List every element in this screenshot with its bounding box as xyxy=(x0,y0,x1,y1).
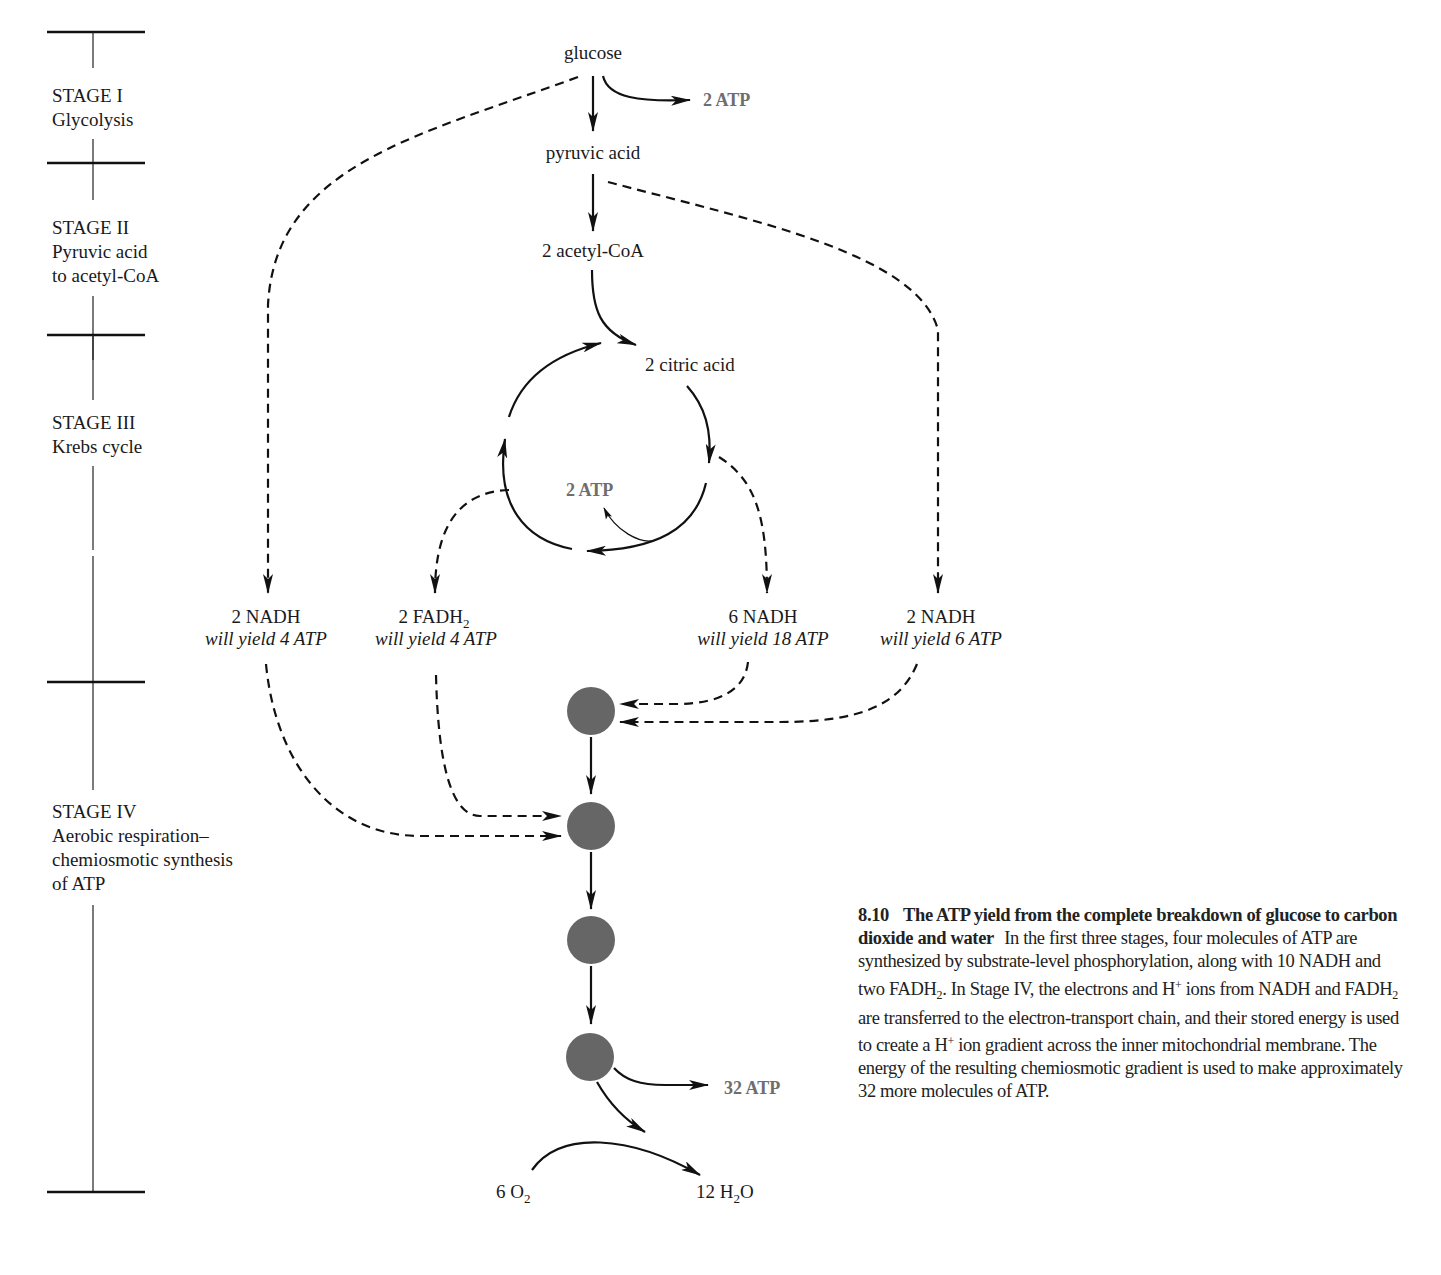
carrier-nadh-pyruvate: 2 NADH will yield 6 ATP xyxy=(880,606,1002,649)
etc-carrier-4 xyxy=(566,1033,614,1081)
carrier-yield: will yield 4 ATP xyxy=(375,628,497,649)
electron-transport-chain xyxy=(532,687,708,1175)
figure-number: 8.10 xyxy=(858,905,889,925)
dashed-arrow-fadh2-to-etc xyxy=(436,675,561,816)
etc-carrier-3 xyxy=(567,916,615,964)
acetyl-coa-label: 2 acetyl-CoA xyxy=(542,240,644,261)
carrier-fadh2-krebs: 2 FADH2 will yield 4 ATP xyxy=(375,606,497,649)
stage-description: to acetyl-CoA xyxy=(52,265,159,286)
arrow-acetylcoa-to-citric xyxy=(592,270,636,345)
cycle-arc xyxy=(503,439,572,549)
carrier-yield: will yield 18 ATP xyxy=(697,628,829,649)
carrier-name: 2 NADH xyxy=(906,606,975,627)
dashed-arrow-krebs-nadh xyxy=(719,457,767,593)
figure-caption: 8.10The ATP yield from the complete brea… xyxy=(858,904,1403,1104)
etc-carrier-2 xyxy=(567,802,615,850)
stage-1-label: STAGE I Glycolysis xyxy=(52,85,133,130)
stage-description: of ATP xyxy=(52,873,105,894)
stage-description: Glycolysis xyxy=(52,109,133,130)
glycolysis-atp-label: 2 ATP xyxy=(703,90,750,110)
dashed-arrow-nadh18-to-etc xyxy=(620,662,748,704)
caption-body: In the first three stages, four molecule… xyxy=(858,928,1403,1101)
stage-3-label: STAGE III Krebs cycle xyxy=(52,412,142,457)
stage-description: Krebs cycle xyxy=(52,436,142,457)
carrier-name: 2 NADH xyxy=(231,606,300,627)
arrow-glycolysis-atp xyxy=(603,76,690,100)
carrier-nadh-glycolysis: 2 NADH will yield 4 ATP xyxy=(205,606,327,649)
dashed-arrow-pyruvate-nadh xyxy=(608,182,938,593)
arrow-etc-to-oxygen xyxy=(597,1082,645,1132)
carrier-nadh-krebs: 6 NADH will yield 18 ATP xyxy=(697,606,829,649)
carrier-yield: will yield 6 ATP xyxy=(880,628,1002,649)
stage-title: STAGE II xyxy=(52,217,129,238)
stage-timeline: STAGE I Glycolysis STAGE II Pyruvic acid… xyxy=(47,32,233,1192)
stage-description: Aerobic respiration– xyxy=(52,825,209,846)
krebs-atp-label: 2 ATP xyxy=(566,480,613,500)
etc-carrier-1 xyxy=(567,687,615,735)
stage-title: STAGE III xyxy=(52,412,135,433)
stage-4-label: STAGE IV Aerobic respiration– chemiosmot… xyxy=(52,801,233,894)
oxygen-label: 6 O2 xyxy=(496,1181,530,1206)
stage-description: Pyruvic acid xyxy=(52,241,148,262)
dashed-arrow-glycolysis-nadh xyxy=(268,77,578,593)
stage-2-label: STAGE II Pyruvic acid to acetyl-CoA xyxy=(52,217,159,286)
glucose-label: glucose xyxy=(564,42,622,63)
cycle-arc xyxy=(687,386,710,463)
dashed-arrow-nadh-to-etc xyxy=(266,664,561,836)
carrier-name: 6 NADH xyxy=(728,606,797,627)
dashed-arrow-krebs-fadh2 xyxy=(435,490,509,593)
water-label: 12 H2O xyxy=(696,1181,754,1206)
dashed-arrow-nadh6-to-etc xyxy=(620,664,917,722)
cycle-arc xyxy=(509,343,601,417)
stage-title: STAGE I xyxy=(52,85,123,106)
carrier-yield: will yield 4 ATP xyxy=(205,628,327,649)
arrow-etc-to-atp xyxy=(614,1068,708,1085)
chemiosmotic-atp-label: 32 ATP xyxy=(724,1078,780,1098)
krebs-atp-arrow xyxy=(604,508,656,541)
stage-description: chemiosmotic synthesis xyxy=(52,849,233,870)
arrow-oxygen-to-water xyxy=(532,1142,700,1175)
stage-title: STAGE IV xyxy=(52,801,137,822)
citric-acid-label: 2 citric acid xyxy=(645,354,735,375)
pyruvic-acid-label: pyruvic acid xyxy=(546,142,641,163)
